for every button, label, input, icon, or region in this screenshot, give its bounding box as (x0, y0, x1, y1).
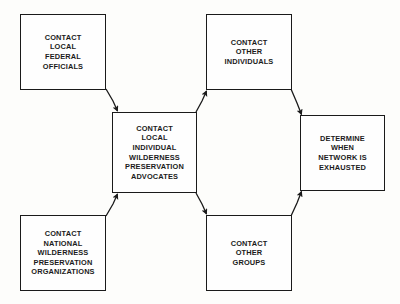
node-contact-local-federal-officials[interactable]: CONTACT LOCAL FEDERAL OFFICIALS (20, 14, 106, 90)
node-contact-local-individual-wilderness-preservation-advocates[interactable]: CONTACT LOCAL INDIVIDUAL WILDERNESS PRES… (112, 112, 197, 193)
node-label: CONTACT LOCAL INDIVIDUAL WILDERNESS PRES… (123, 124, 186, 182)
connector-advocates-to-groups (196, 193, 207, 214)
node-label: CONTACT OTHER GROUPS (229, 239, 270, 268)
node-contact-other-groups[interactable]: CONTACT OTHER GROUPS (206, 215, 292, 291)
node-contact-other-individuals[interactable]: CONTACT OTHER INDIVIDUALS (206, 14, 292, 90)
node-contact-national-wilderness-preservation-organizations[interactable]: CONTACT NATIONAL WILDERNESS PRESERVATION… (20, 215, 106, 291)
node-label: CONTACT OTHER INDIVIDUALS (223, 38, 276, 67)
node-label: DETERMINE WHEN NETWORK IS EXHAUSTED (316, 134, 369, 172)
node-label: CONTACT LOCAL FEDERAL OFFICIALS (41, 33, 85, 71)
flowchart-canvas: CONTACT LOCAL FEDERAL OFFICIALS CONTACT … (0, 0, 400, 304)
connector-groups-to-determine (291, 192, 302, 217)
connector-advocates-to-individuals (196, 91, 207, 112)
node-label: CONTACT NATIONAL WILDERNESS PRESERVATION… (29, 229, 96, 277)
connector-federal-to-advocates (106, 89, 118, 111)
connector-individuals-to-determine (291, 89, 302, 115)
node-determine-when-network-is-exhausted[interactable]: DETERMINE WHEN NETWORK IS EXHAUSTED (300, 115, 385, 191)
connector-national-to-advocates (106, 194, 118, 216)
